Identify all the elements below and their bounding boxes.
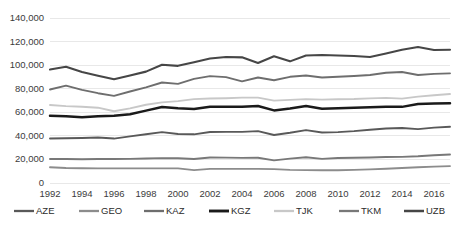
y-axis-label: 80,000 [15, 83, 44, 94]
x-axis-label: 1994 [71, 188, 92, 199]
x-axis-label: 2012 [359, 188, 380, 199]
x-axis-label: 1996 [103, 188, 124, 199]
legend-label-kgz: KGZ [231, 205, 251, 216]
y-axis-label: 100,000 [10, 59, 44, 70]
y-axis-label: 60,000 [15, 106, 44, 117]
legend-label-aze: AZE [36, 205, 54, 216]
x-axis-label: 2016 [423, 188, 444, 199]
x-axis-label: 2008 [295, 188, 316, 199]
legend-label-kaz: KAZ [166, 205, 185, 216]
x-axis-label: 2010 [327, 188, 348, 199]
y-axis-label: 140,000 [10, 12, 44, 23]
x-axis-label: 2004 [231, 188, 252, 199]
x-axis-label: 1992 [39, 188, 60, 199]
line-chart: 020,00040,00060,00080,000100,000120,0001… [0, 0, 455, 229]
legend-label-geo: GEO [101, 205, 122, 216]
legend-label-uzb: UZB [426, 205, 445, 216]
x-axis-label: 2002 [199, 188, 220, 199]
chart-canvas: 020,00040,00060,00080,000100,000120,0001… [0, 0, 455, 229]
x-axis-label: 2014 [391, 188, 412, 199]
legend-label-tjk: TJK [296, 205, 314, 216]
y-axis-label: 20,000 [15, 153, 44, 164]
x-axis-label: 2006 [263, 188, 284, 199]
chart-background [0, 0, 455, 229]
y-axis-label: 40,000 [15, 130, 44, 141]
legend-label-tkm: TKM [361, 205, 381, 216]
y-axis-label: 120,000 [10, 36, 44, 47]
y-axis-label: 0 [39, 177, 44, 188]
x-axis-label: 1998 [135, 188, 156, 199]
x-axis-label: 2000 [167, 188, 188, 199]
